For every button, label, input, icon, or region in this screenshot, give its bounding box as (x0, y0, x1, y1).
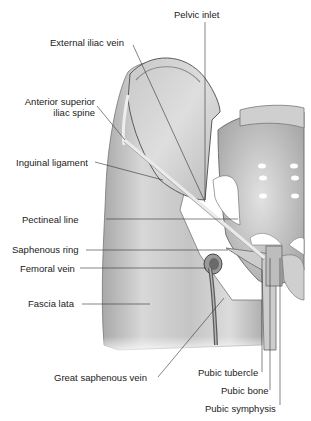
label-fascia-lata: Fascia lata (28, 298, 74, 309)
label-asis-line-2: iliac spine (15, 107, 95, 118)
label-anterior-superior-iliac-spine: Anterior superior iliac spine (15, 96, 95, 118)
label-femoral-vein: Femoral vein (20, 263, 75, 274)
label-saphenous-ring: Saphenous ring (12, 244, 79, 255)
label-pectineal-line: Pectineal line (22, 214, 79, 225)
label-pubic-tubercle: Pubic tubercle (198, 367, 258, 378)
label-inguinal-ligament: Inguinal ligament (16, 157, 88, 168)
anatomy-illustration (0, 0, 311, 421)
label-pelvic-inlet: Pelvic inlet (174, 9, 219, 20)
label-pubic-bone: Pubic bone (221, 385, 269, 396)
label-external-iliac-vein: External iliac vein (50, 37, 124, 48)
label-great-saphenous-vein: Great saphenous vein (54, 372, 147, 383)
label-asis-line-1: Anterior superior (15, 96, 95, 107)
label-pubic-symphysis: Pubic symphysis (205, 403, 276, 414)
